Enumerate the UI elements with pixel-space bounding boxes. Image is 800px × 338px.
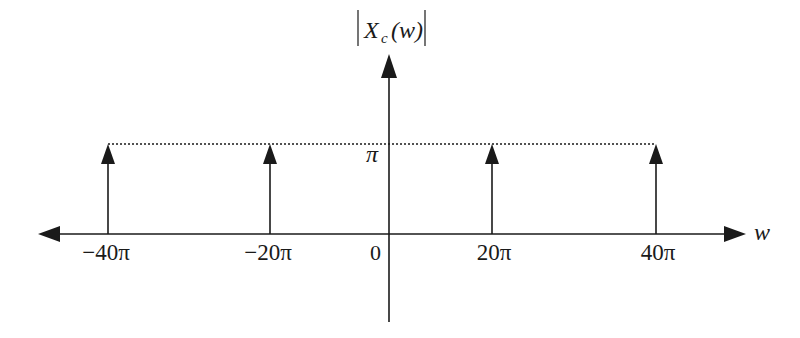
impulse-arrow-icon bbox=[263, 144, 277, 164]
origin-label: 0 bbox=[370, 240, 381, 265]
impulse-pos-20pi bbox=[485, 144, 499, 234]
w-axis-label: w bbox=[754, 219, 770, 245]
impulse-arrow-icon bbox=[101, 144, 115, 164]
tick-label-neg-40pi: −40π bbox=[82, 240, 130, 265]
impulse-pos-40pi bbox=[649, 144, 663, 234]
title-subscript: c bbox=[381, 30, 388, 46]
pi-level-label: π bbox=[366, 141, 379, 167]
axis-right-arrow-icon bbox=[724, 226, 746, 242]
impulse-arrow-icon bbox=[485, 144, 499, 164]
impulse-neg-40pi bbox=[101, 144, 115, 234]
magnitude-title: X c (w) bbox=[358, 10, 425, 46]
tick-label-pos-20pi: 20π bbox=[477, 240, 512, 265]
impulse-arrow-icon bbox=[649, 144, 663, 164]
impulse-neg-20pi bbox=[263, 144, 277, 234]
title-argument: (w) bbox=[391, 17, 423, 43]
axis-up-arrow-icon bbox=[381, 54, 397, 78]
title-symbol: X bbox=[363, 17, 380, 43]
axis-left-arrow-icon bbox=[38, 226, 60, 242]
magnitude-axis bbox=[381, 54, 397, 322]
tick-label-neg-20pi: −20π bbox=[244, 240, 292, 265]
tick-label-pos-40pi: 40π bbox=[641, 240, 676, 265]
spectrum-diagram: X c (w) π w 0 −40π −20π 20π 40π bbox=[0, 0, 800, 338]
